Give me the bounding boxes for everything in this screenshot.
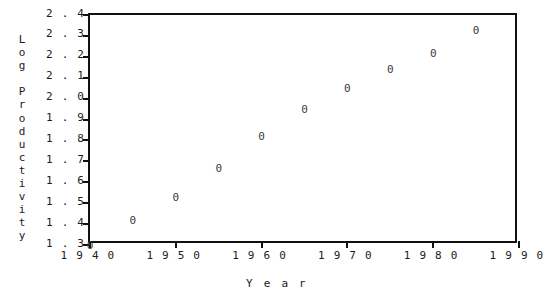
y-axis-tick-label: 2 . 4 <box>46 8 82 19</box>
x-axis-tick-label: 1 9 4 0 <box>61 250 116 261</box>
x-axis-tick <box>261 241 263 248</box>
y-axis-tick <box>83 98 90 100</box>
x-axis-tick <box>175 241 177 248</box>
data-point: 0 <box>430 47 437 58</box>
y-axis-tick <box>83 202 90 204</box>
data-point: 0 <box>215 162 222 173</box>
x-axis-tick-labels: 1 9 4 01 9 5 01 9 6 01 9 7 01 9 8 01 9 9… <box>0 250 554 266</box>
y-axis-title: L o g P r o d u c t i v i t y <box>14 33 30 243</box>
x-axis-title: Y e a r <box>0 278 554 289</box>
x-axis-tick <box>518 241 520 248</box>
data-point: 0 <box>258 131 265 142</box>
y-axis-tick-label: 1 . 9 <box>46 112 82 123</box>
y-axis-tick-label: 1 . 7 <box>46 154 82 165</box>
x-axis-tick-label: 1 9 6 0 <box>232 250 287 261</box>
y-axis-tick-label: 1 . 3 <box>46 238 82 249</box>
x-axis-tick-label: 1 9 7 0 <box>318 250 373 261</box>
y-axis-tick-label: 2 . 0 <box>46 91 82 102</box>
y-axis-tick <box>83 56 90 58</box>
x-axis-tick-label: 1 9 9 0 <box>490 250 545 261</box>
y-axis-tick <box>83 119 90 121</box>
y-axis-tick <box>83 160 90 162</box>
y-axis-tick <box>83 139 90 141</box>
data-point: 0 <box>344 83 351 94</box>
x-axis-tick-label: 1 9 5 0 <box>146 250 201 261</box>
y-axis-tick-label: 2 . 3 <box>46 28 82 39</box>
data-point: 0 <box>387 64 394 75</box>
data-point: 0 <box>301 104 308 115</box>
data-point: 0 <box>130 214 137 225</box>
x-axis-tick <box>346 241 348 248</box>
x-axis-tick-label: 1 9 8 0 <box>404 250 459 261</box>
y-axis-tick <box>83 77 90 79</box>
x-axis-tick <box>432 241 434 248</box>
scatter-chart-figure: L o g P r o d u c t i v i t y 1 . 31 . 4… <box>0 0 554 305</box>
y-axis-tick <box>83 14 90 16</box>
y-axis-tick-label: 1 . 5 <box>46 196 82 207</box>
plot-area: 0000000000 <box>88 13 517 243</box>
y-axis-tick <box>83 35 90 37</box>
y-axis-tick-label: 1 . 6 <box>46 175 82 186</box>
y-axis-tick-label: 1 . 8 <box>46 133 82 144</box>
y-axis-tick <box>83 181 90 183</box>
y-axis-tick-label: 2 . 2 <box>46 49 82 60</box>
data-point: 0 <box>473 24 480 35</box>
y-axis-tick-label: 1 . 4 <box>46 217 82 228</box>
data-point: 0 <box>172 191 179 202</box>
y-axis-tick <box>83 223 90 225</box>
y-axis-tick-label: 2 . 1 <box>46 70 82 81</box>
